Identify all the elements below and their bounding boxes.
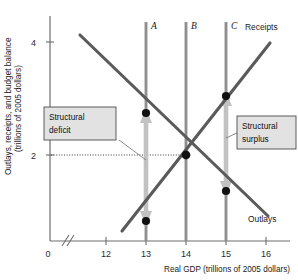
y-tick-label-2: 2 [31, 151, 36, 161]
point-a-receipts [142, 217, 150, 225]
y-tick-label-4: 4 [31, 38, 36, 48]
deficit-callout-line2: deficit [49, 125, 71, 135]
surplus-callout-line1: Structural [242, 121, 278, 131]
budget-balance-chart: Outlays, receipts, and budget balance (t… [0, 0, 298, 280]
vertical-line-label-a: A [150, 21, 157, 31]
chart-svg: Outlays, receipts, and budget balance (t… [0, 0, 298, 280]
receipts-label: Receipts [245, 22, 278, 32]
x-tick-label-0: 0 [45, 249, 50, 259]
x-tick-label-14: 14 [181, 249, 191, 259]
vertical-line-label-c: C [231, 21, 238, 31]
x-axis-title: Real GDP (trillions of 2005 dollars) [164, 265, 290, 274]
structural-deficit-callout: Structural deficit [44, 107, 146, 160]
surplus-callout-line2: surplus [242, 134, 269, 144]
x-tick-label-16: 16 [261, 249, 271, 259]
y-axis-title-line1: Outlays, receipts, and budget balance [4, 37, 13, 175]
y-axis-title-line2: (trillions of 2005 dollars) [14, 65, 23, 152]
point-c-receipts [222, 92, 230, 100]
structural-surplus-callout: Structural surplus [226, 116, 296, 149]
point-c-outlays [222, 187, 230, 195]
deficit-callout-line1: Structural [49, 112, 85, 122]
point-a-outlays [142, 109, 150, 117]
x-tick-group: 0 12 13 14 15 16 [45, 237, 271, 259]
x-tick-label-13: 13 [141, 249, 151, 259]
x-tick-label-12: 12 [101, 249, 111, 259]
point-b-intersection [182, 151, 191, 160]
deficit-leader-line [119, 140, 146, 160]
outlays-label: Outlays [248, 214, 276, 224]
x-tick-label-15: 15 [221, 249, 231, 259]
vertical-line-label-b: B [191, 21, 197, 31]
